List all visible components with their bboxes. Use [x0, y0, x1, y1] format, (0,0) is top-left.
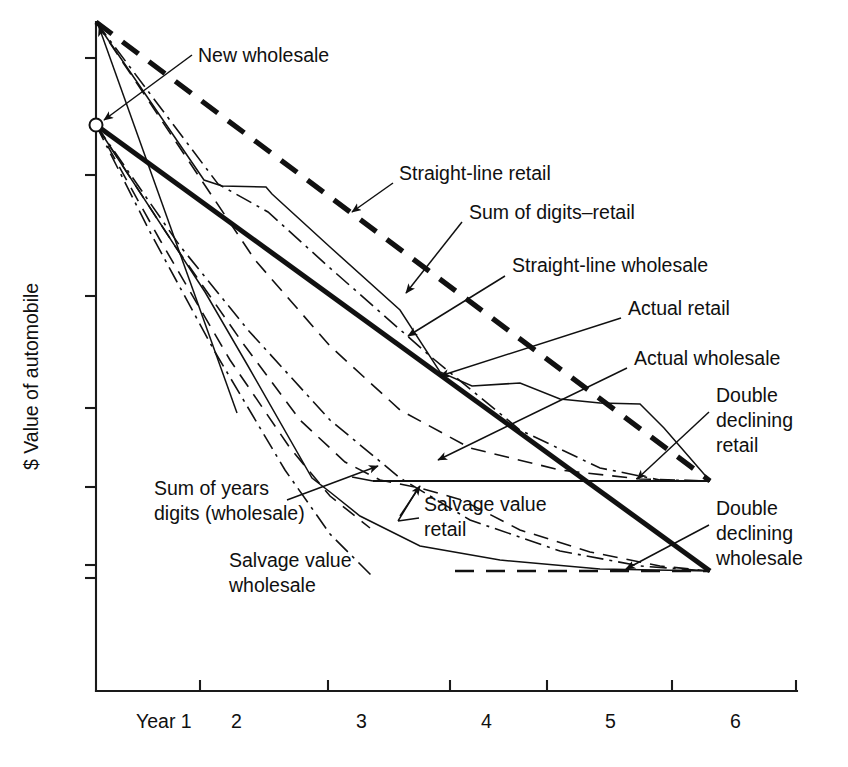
- x-tick-label-4: 5: [605, 710, 616, 732]
- leader-new-wholesale-top: [99, 27, 237, 413]
- annotation-straight-line-retail: Straight-line retail: [399, 162, 551, 184]
- leader-actual-wholesale: [438, 368, 627, 460]
- annotation-double-declining-retail-line3: retail: [716, 434, 758, 456]
- annotation-sum-of-years-digits-wholesale-line2: digits (wholesale): [154, 502, 305, 524]
- annotation-salvage-value-wholesale-line2: wholesale: [228, 574, 316, 596]
- annotation-sum-of-years-digits-wholesale-line1: Sum of years: [154, 477, 269, 499]
- annotation-new-wholesale: New wholesale: [198, 44, 329, 66]
- annotation-double-declining-retail-line2: declining: [716, 409, 793, 431]
- annotation-salvage-value-wholesale-line1: Salvage value: [229, 549, 352, 571]
- y-axis-title: $ Value of automobile: [20, 283, 42, 470]
- annotation-sum-of-digits-retail: Sum of digits–retail: [469, 201, 635, 223]
- chart-canvas: $ Value of automobile Year 1 2 3 4 5 6 N…: [0, 0, 848, 767]
- annotation-salvage-value-retail-line1: Salvage value: [424, 493, 547, 515]
- annotation-double-declining-wholesale-line1: Double: [716, 497, 778, 519]
- leader-straight-line-wholesale: [408, 276, 505, 336]
- annotation-actual-wholesale: Actual wholesale: [634, 347, 780, 369]
- leader-straight-line-retail: [352, 183, 393, 212]
- depreciation-chart: $ Value of automobile Year 1 2 3 4 5 6 N…: [0, 0, 848, 767]
- x-tick-label-5: 6: [730, 710, 741, 732]
- annotation-actual-retail: Actual retail: [628, 297, 730, 319]
- x-tick-label-3: 4: [481, 710, 492, 732]
- leader-salvage-value-retail: [398, 490, 419, 521]
- annotation-straight-line-wholesale: Straight-line wholesale: [512, 254, 708, 276]
- leader-salvage-value-retail-arrow: [400, 486, 420, 516]
- x-tick-label-1: 2: [231, 710, 242, 732]
- leader-actual-retail: [440, 318, 621, 376]
- annotation-double-declining-wholesale-line3: wholesale: [715, 547, 803, 569]
- x-tick-label-0: Year 1: [136, 710, 192, 732]
- new-wholesale-marker: [90, 119, 103, 132]
- leader-new-wholesale: [104, 55, 192, 120]
- annotation-double-declining-wholesale-line2: declining: [716, 522, 793, 544]
- series-straight-line-retail: [96, 22, 710, 481]
- x-tick-label-2: 3: [356, 710, 367, 732]
- annotation-salvage-value-retail-line2: retail: [424, 518, 466, 540]
- annotation-double-declining-retail-line1: Double: [716, 384, 778, 406]
- leader-double-declining-retail: [637, 412, 709, 479]
- leader-salvage-value-wholesale: [352, 477, 373, 481]
